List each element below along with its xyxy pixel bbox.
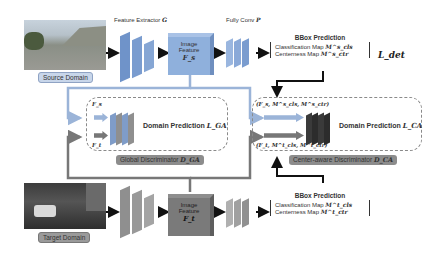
fully-conv-text: Fully Conv [226, 17, 254, 23]
ca-name: Center-aware Discriminator [293, 156, 372, 163]
source-image-feature: Image Feature F_s [168, 33, 214, 75]
ctr-symbol: M^t_ctr [321, 208, 348, 215]
ga-prediction-text: Domain Prediction [143, 122, 205, 129]
source-fully-conv [226, 38, 256, 68]
center-aware-discriminator-label: Center-aware Discriminator D_CA [289, 155, 397, 165]
target-domain-label: Target Domain [38, 232, 90, 243]
bbox-title: BBox Prediction [270, 34, 370, 41]
cls-symbol: M^t_cls [325, 201, 352, 208]
bbox-title: BBox Prediction [270, 192, 370, 199]
target-image-feature: Image Feature F_t [168, 194, 214, 236]
ga-prediction: Domain Prediction L_GA [143, 121, 227, 130]
cls-symbol: M^s_cls [325, 43, 352, 50]
ca-prediction: Domain Prediction L_CA [339, 121, 422, 130]
detection-loss: L_det [378, 50, 405, 60]
feature-extractor-symbol: G [162, 16, 167, 23]
ga-symbol: D_GA [180, 156, 199, 164]
ga-name: Global Discriminator [120, 156, 179, 163]
ga-layers [110, 110, 140, 146]
source-bbox-prediction: BBox Prediction Classification Map M^s_c… [270, 34, 370, 58]
ca-input-source: (F_s, M^s_cls, M^s_ctr) [256, 101, 329, 107]
target-fully-conv [226, 198, 256, 228]
ca-loss: L_CA [403, 121, 422, 130]
feature-extractor-label: Feature Extractor G [114, 16, 167, 23]
ctr-symbol: M^s_ctr [321, 50, 349, 57]
fully-conv-symbol: P [256, 16, 261, 23]
ga-input-target: F_t [92, 142, 101, 148]
ca-symbol: D_CA [374, 156, 393, 164]
source-domain-label: Source Domain [38, 72, 93, 83]
ga-loss: L_GA [207, 121, 227, 130]
ctr-map-label: Centerness Map [275, 51, 319, 57]
target-domain-image [24, 183, 106, 229]
ca-prediction-text: Domain Prediction [339, 122, 401, 129]
ca-layers [306, 110, 336, 146]
feature-extractor-text: Feature Extractor [114, 17, 160, 23]
source-domain-image [24, 20, 106, 70]
image-feature-symbol: F_t [168, 214, 210, 223]
image-feature-symbol: F_s [168, 53, 210, 62]
global-discriminator-label: Global Discriminator D_GA [116, 155, 204, 165]
source-feature-extractor [120, 30, 158, 80]
target-bbox-prediction: BBox Prediction Classification Map M^t_c… [270, 192, 370, 216]
ctr-map-label: Centerness Map [275, 209, 319, 215]
target-feature-extractor [120, 184, 158, 239]
ga-input-source: F_s [92, 101, 102, 107]
fully-conv-label: Fully Conv P [226, 16, 261, 23]
